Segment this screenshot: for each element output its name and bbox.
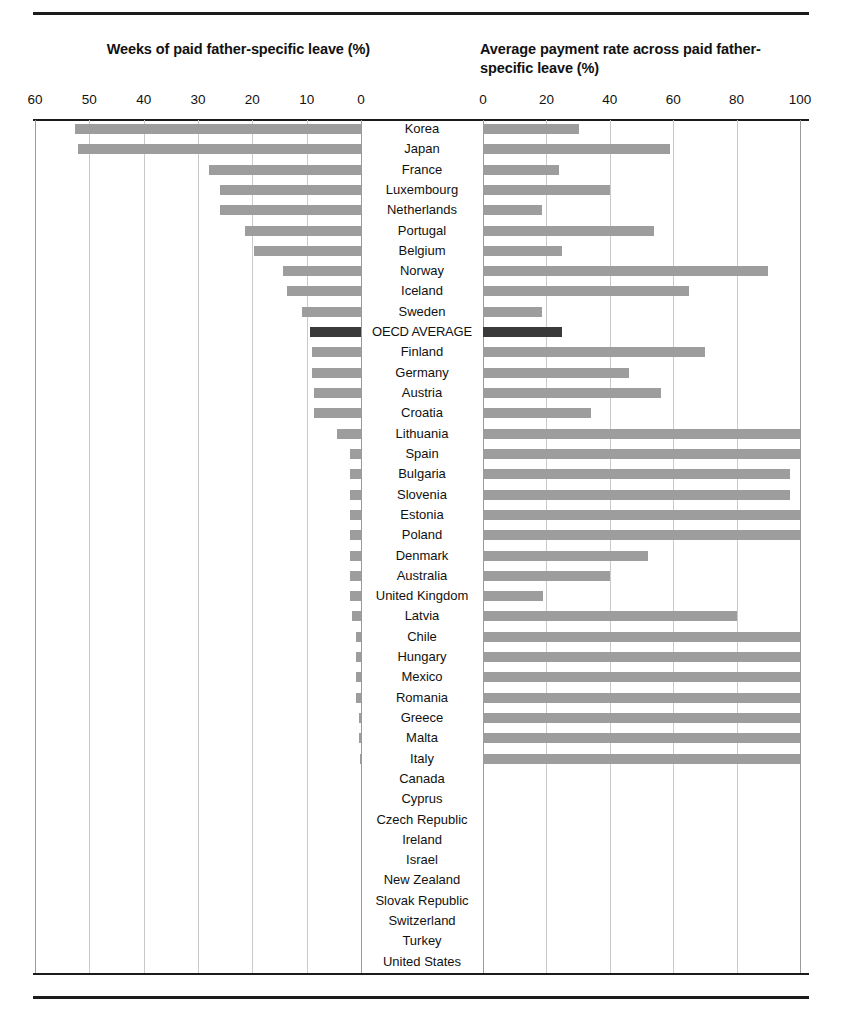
chart-row: Lithuania (0, 425, 842, 445)
category-label: Austria (366, 383, 478, 403)
chart-row: Germany (0, 364, 842, 384)
payment-rate-bar (483, 388, 661, 398)
chart-row: Sweden (0, 303, 842, 323)
chart-figure: Weeks of paid father-specific leave (%) … (0, 0, 842, 1009)
category-label: Iceland (366, 281, 478, 301)
left-axis-tick-60: 60 (27, 92, 42, 107)
left-axis-tick-30: 30 (190, 92, 205, 107)
payment-rate-bar (483, 754, 800, 764)
weeks-bar (350, 469, 361, 479)
chart-row: Korea (0, 120, 842, 140)
weeks-bar (356, 632, 361, 642)
payment-rate-bar (483, 165, 559, 175)
category-label: Romania (366, 688, 478, 708)
weeks-bar (220, 205, 361, 215)
category-label: Spain (366, 444, 478, 464)
payment-rate-bar (483, 632, 800, 642)
weeks-bar (245, 226, 361, 236)
payment-rate-bar (483, 490, 790, 500)
category-label: Latvia (366, 606, 478, 626)
payment-rate-bar (483, 226, 654, 236)
chart-row: Greece (0, 709, 842, 729)
chart-row: Netherlands (0, 201, 842, 221)
left-axis-tick-10: 10 (299, 92, 314, 107)
weeks-bar (220, 185, 361, 195)
chart-row: Slovenia (0, 486, 842, 506)
category-label: Lithuania (366, 424, 478, 444)
category-label: New Zealand (366, 870, 478, 890)
category-label: Bulgaria (366, 464, 478, 484)
axis-bottom-line (33, 973, 809, 975)
chart-row: Czech Republic (0, 811, 842, 831)
weeks-bar (209, 165, 361, 175)
category-label: Croatia (366, 403, 478, 423)
category-label: Chile (366, 627, 478, 647)
payment-rate-bar (483, 185, 610, 195)
payment-rate-bar (483, 408, 591, 418)
category-label: Czech Republic (366, 810, 478, 830)
payment-rate-bar (483, 713, 800, 723)
weeks-bar (75, 124, 361, 134)
weeks-bar (78, 144, 361, 154)
category-label: Finland (366, 342, 478, 362)
payment-rate-bar (483, 693, 800, 703)
left-axis-tick-0: 0 (357, 92, 365, 107)
chart-row: Israel (0, 851, 842, 871)
right-axis-tick-100: 100 (789, 92, 812, 107)
weeks-bar (254, 246, 361, 256)
chart-titles: Weeks of paid father-specific leave (%) … (0, 40, 842, 90)
category-label: Cyprus (366, 789, 478, 809)
bottom-rule (33, 996, 809, 999)
category-label: Belgium (366, 241, 478, 261)
weeks-bar (350, 449, 361, 459)
payment-rate-bar (483, 510, 800, 520)
chart-row: Chile (0, 628, 842, 648)
category-label: Japan (366, 139, 478, 159)
weeks-bar (350, 551, 361, 561)
category-label: Hungary (366, 647, 478, 667)
chart-row: Finland (0, 343, 842, 363)
category-label: United Kingdom (366, 586, 478, 606)
right-axis-tick-60: 60 (666, 92, 681, 107)
weeks-bar (356, 672, 361, 682)
chart-row: Portugal (0, 222, 842, 242)
category-label: Portugal (366, 221, 478, 241)
chart-row: OECD AVERAGE (0, 323, 842, 343)
chart-row: Mexico (0, 668, 842, 688)
chart-row: Turkey (0, 932, 842, 952)
weeks-bar (360, 754, 362, 764)
payment-rate-bar (483, 530, 800, 540)
category-label: Netherlands (366, 200, 478, 220)
chart-row: New Zealand (0, 871, 842, 891)
chart-row: France (0, 161, 842, 181)
chart-row: Luxembourg (0, 181, 842, 201)
weeks-bar (312, 368, 361, 378)
chart-row: Hungary (0, 648, 842, 668)
weeks-bar (350, 490, 361, 500)
payment-rate-bar (483, 429, 800, 439)
weeks-bar (359, 713, 361, 723)
category-label: Israel (366, 850, 478, 870)
weeks-bar (314, 408, 361, 418)
category-label: Estonia (366, 505, 478, 525)
payment-rate-bar (483, 246, 562, 256)
left-panel-title: Weeks of paid father-specific leave (%) (60, 40, 370, 59)
category-label: Ireland (366, 830, 478, 850)
category-label: Slovak Republic (366, 891, 478, 911)
category-label: Denmark (366, 546, 478, 566)
chart-row: Japan (0, 140, 842, 160)
chart-row: Australia (0, 567, 842, 587)
payment-rate-bar (483, 368, 629, 378)
weeks-bar (350, 510, 361, 520)
left-axis-tick-20: 20 (245, 92, 260, 107)
payment-rate-bar (483, 286, 689, 296)
chart-row: Belgium (0, 242, 842, 262)
plot-area: KoreaJapanFranceLuxembourgNetherlandsPor… (0, 119, 842, 975)
category-label: Mexico (366, 667, 478, 687)
top-rule (33, 12, 809, 15)
weeks-bar (310, 327, 361, 337)
category-label: Malta (366, 728, 478, 748)
category-label: United States (366, 952, 478, 972)
category-label: OECD AVERAGE (366, 322, 478, 342)
category-label: Slovenia (366, 485, 478, 505)
